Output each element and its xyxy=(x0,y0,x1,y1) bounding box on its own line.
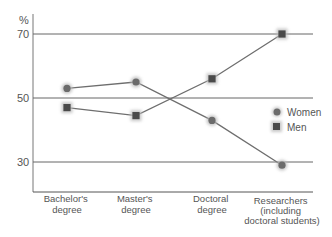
data-point-women-3 xyxy=(278,162,285,169)
legend-men-label: Men xyxy=(287,122,306,133)
y-unit-label: % xyxy=(19,14,29,26)
y-tick-50: 50 xyxy=(17,92,29,104)
legend-men-marker-icon xyxy=(273,123,280,130)
legend-women-label: Women xyxy=(287,107,321,118)
data-point-men-2 xyxy=(208,75,215,82)
data-point-men-3 xyxy=(278,30,285,37)
series-line-men xyxy=(67,34,282,116)
category-label-researchers: Researchers (including doctoral students… xyxy=(244,195,320,226)
legend: Women Men xyxy=(271,107,321,133)
y-tick-70: 70 xyxy=(17,28,29,40)
category-label-masters: Master's degree xyxy=(117,193,155,215)
series-line-women xyxy=(67,82,282,165)
series-men xyxy=(62,29,288,122)
data-point-men-1 xyxy=(132,112,139,119)
line-chart: % 70 50 30 Bachelor's degree Master's de… xyxy=(0,0,332,237)
data-point-women-1 xyxy=(132,78,139,85)
legend-women-marker-icon xyxy=(274,109,281,116)
category-label-bachelors: Bachelor's degree xyxy=(44,193,91,215)
x-category-labels: Bachelor's degree Master's degree Doctor… xyxy=(44,193,320,226)
data-point-women-2 xyxy=(208,117,215,124)
series-layer xyxy=(62,29,288,171)
series-women xyxy=(62,77,288,171)
category-label-doctoral: Doctoral degree xyxy=(193,193,231,215)
data-point-women-0 xyxy=(63,85,70,92)
data-point-men-0 xyxy=(63,104,70,111)
y-tick-30: 30 xyxy=(17,156,29,168)
